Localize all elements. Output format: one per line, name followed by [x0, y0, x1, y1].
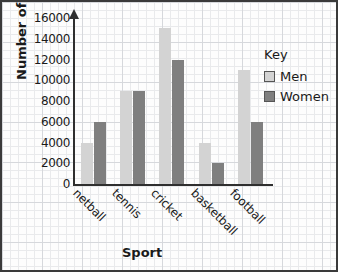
bar-groups	[74, 18, 270, 184]
legend-label-women: Women	[280, 89, 329, 104]
bar-tennis-women	[133, 91, 145, 184]
y-tick-label: 14000	[34, 32, 70, 46]
y-tick-label: 4000	[41, 136, 70, 150]
legend: Key Men Women	[264, 47, 329, 109]
x-axis-title: Sport	[122, 245, 162, 260]
bar-football-men	[238, 70, 250, 184]
y-tick-label: 8000	[41, 94, 70, 108]
bar-group	[238, 18, 263, 184]
bar-group	[120, 18, 145, 184]
bar-netball-women	[94, 122, 106, 184]
legend-swatch-men-icon	[264, 71, 275, 82]
x-tick-label-netball: netball	[70, 186, 108, 224]
bar-group	[81, 18, 106, 184]
bar-basketball-women	[212, 163, 224, 184]
bar-cricket-women	[172, 60, 184, 185]
y-tick-label: 10000	[34, 73, 70, 87]
bar-football-women	[251, 122, 263, 184]
bar-group	[199, 18, 224, 184]
bar-group	[159, 18, 184, 184]
legend-swatch-women-icon	[264, 91, 275, 102]
bar-chart-screenshot: Number of adults 02000400060008000100001…	[0, 0, 338, 272]
x-tick-labels: netballtenniscricketbasketballfootball	[74, 186, 270, 246]
legend-item-women: Women	[264, 89, 329, 104]
y-tick-label: 6000	[41, 115, 70, 129]
legend-label-men: Men	[280, 69, 307, 84]
bar-cricket-men	[159, 28, 171, 184]
x-tick-label-cricket: cricket	[148, 186, 185, 223]
y-tick-label: 2000	[41, 156, 70, 170]
bar-basketball-men	[199, 143, 211, 185]
legend-item-men: Men	[264, 69, 329, 84]
y-axis-title: Number of adults	[14, 0, 29, 80]
bar-tennis-men	[120, 91, 132, 184]
legend-title: Key	[264, 47, 329, 62]
y-tick-label: 0	[63, 177, 70, 191]
bar-netball-men	[81, 143, 93, 185]
y-tick-label: 16000	[34, 11, 70, 25]
y-tick-label: 12000	[34, 53, 70, 67]
plot-area: 0200040006000800010000120001400016000	[74, 18, 270, 184]
x-tick-label-tennis: tennis	[109, 186, 144, 221]
